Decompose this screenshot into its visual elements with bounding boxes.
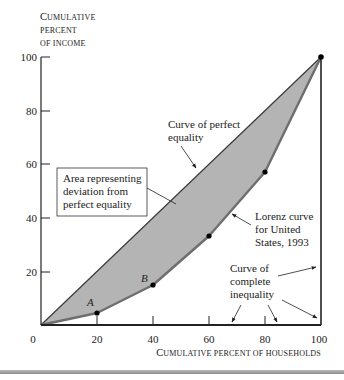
perfect-equality-label-line2: equality (168, 131, 204, 143)
complete-inequality-label-line3: inequality (230, 288, 274, 300)
lorenz-arrow (232, 214, 251, 225)
x-tick-80: 80 (260, 333, 272, 345)
area-label-line3: perfect equality (63, 198, 132, 210)
point-a-label: A (86, 296, 94, 308)
x-ticks (97, 316, 265, 325)
lorenz-label-line2: for United (255, 223, 301, 235)
x-tick-40: 40 (148, 333, 160, 345)
chart-canvas: CUMULATIVE PERCENT OF INCOME 100 80 60 4… (0, 0, 344, 380)
lorenz-curve-figure: CUMULATIVE PERCENT OF INCOME 100 80 60 4… (0, 0, 344, 380)
x-tick-100: 100 (311, 333, 328, 345)
point-100-marker (318, 54, 324, 60)
point-b-label: B (141, 272, 148, 284)
y-tick-60: 60 (26, 158, 38, 170)
y-tick-20: 20 (26, 266, 38, 278)
bottom-divider (0, 370, 344, 374)
y-tick-40: 40 (26, 212, 38, 224)
perfect-equality-label-line1: Curve of perfect (168, 118, 240, 130)
point-80-marker (262, 169, 267, 174)
y-tick-80: 80 (26, 105, 38, 117)
area-leader-line (147, 188, 176, 204)
y-tick-100: 100 (21, 51, 38, 63)
y-axis-title-line2: PERCENT (40, 26, 77, 35)
area-label-line2: deviation from (63, 185, 129, 197)
lorenz-label-line1: Lorenz curve (255, 210, 313, 222)
y-ticks (41, 57, 50, 272)
point-a-marker (94, 310, 99, 315)
y-axis-title: CUMULATIVE (40, 11, 95, 22)
x-tick-20: 20 (92, 333, 104, 345)
lorenz-label-line3: States, 1993 (255, 236, 309, 248)
area-label-line1: Area representing (63, 172, 142, 184)
point-b-marker (150, 282, 155, 287)
point-60-marker (206, 233, 211, 238)
complete-inequality-label-line1: Curve of (230, 262, 269, 274)
x-tick-0: 0 (30, 333, 36, 345)
perfect-equality-arrow (181, 146, 196, 168)
x-tick-60: 60 (204, 333, 216, 345)
y-axis-title-line3: OF INCOME (40, 39, 86, 48)
complete-inequality-label-line2: complete (230, 275, 270, 287)
x-axis-title: CUMULATIVE PERCENT OF HOUSEHOLDS (156, 347, 321, 358)
